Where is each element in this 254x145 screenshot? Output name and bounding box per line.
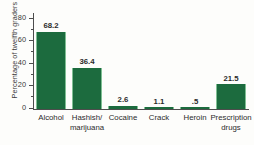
category-line-1: Hashish/ bbox=[72, 113, 102, 122]
y-tick-label: 20 bbox=[18, 80, 26, 89]
bar-slot: 68.2 bbox=[33, 13, 69, 109]
category-line-1: Alcohol bbox=[38, 113, 64, 122]
bar-value-label: 21.5 bbox=[223, 74, 238, 83]
bar-slot: 2.6 bbox=[105, 13, 141, 109]
bar-value-label: 68.2 bbox=[43, 21, 58, 30]
x-axis-line bbox=[33, 109, 249, 111]
category-line-1: Cocaine bbox=[109, 113, 138, 122]
bar-value-label: 1.1 bbox=[154, 97, 165, 106]
bar: 36.4 bbox=[72, 68, 102, 109]
bar: 21.5 bbox=[216, 84, 246, 108]
y-tick-label: 40 bbox=[18, 58, 26, 67]
bar: .5 bbox=[180, 107, 210, 108]
category-line-1: Crack bbox=[149, 113, 169, 122]
bar-value-label: 36.4 bbox=[79, 57, 94, 66]
bar: 1.1 bbox=[144, 107, 174, 108]
bar-slot: 21.5 bbox=[213, 13, 249, 109]
y-tick-label: 80 bbox=[18, 13, 26, 22]
x-category-label: Prescriptiondrugs bbox=[207, 113, 254, 132]
category-line-1: Heroin bbox=[184, 113, 207, 122]
bar-slot: 1.1 bbox=[141, 13, 177, 109]
bar-value-label: .5 bbox=[192, 97, 199, 106]
bar-slot: .5 bbox=[177, 13, 213, 109]
category-line-2: marijuana bbox=[63, 123, 111, 133]
category-line-2: drugs bbox=[207, 123, 254, 133]
bar-slot: 36.4 bbox=[69, 13, 105, 109]
y-tick-label: 60 bbox=[18, 35, 26, 44]
y-tick-label: 0 bbox=[22, 103, 26, 112]
plot-area: 020406080 68.236.42.61.1.521.5 bbox=[33, 13, 249, 110]
bar-value-label: 2.6 bbox=[118, 95, 129, 104]
bar: 68.2 bbox=[36, 32, 66, 109]
category-line-1: Prescription bbox=[210, 113, 251, 122]
bar: 2.6 bbox=[108, 106, 138, 109]
bar-chart: Percentage of twelfth graders using 0204… bbox=[0, 0, 254, 145]
bar-series: 68.236.42.61.1.521.5 bbox=[33, 13, 249, 109]
x-axis-category-labels: AlcoholHashish/marijuanaCocaineCrackHero… bbox=[33, 113, 249, 143]
